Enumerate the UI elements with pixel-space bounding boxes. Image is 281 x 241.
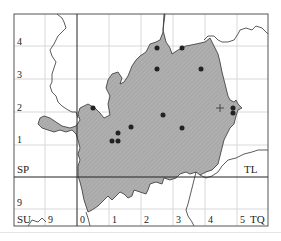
southwest-boundary-line — [86, 212, 90, 226]
south-boundary-line — [186, 172, 196, 226]
northeast-boundary-line — [204, 26, 268, 42]
west-boundary-line — [50, 14, 78, 118]
grid-square-su: SU — [17, 214, 31, 225]
y-label-4: 4 — [17, 37, 22, 47]
grid-square-sp: SP — [17, 164, 29, 175]
y-label-1: 1 — [17, 135, 22, 145]
distribution-map — [0, 0, 281, 241]
x-label-4: 4 — [208, 215, 213, 225]
county-shaded-area — [38, 14, 242, 212]
x-label-1: 1 — [112, 215, 117, 225]
x-label-3: 3 — [176, 215, 181, 225]
grid-square-tq: TQ — [250, 214, 265, 225]
x-label-5: 5 — [240, 215, 245, 225]
y-label-2: 2 — [17, 103, 22, 113]
divider — [0, 232, 281, 233]
y-label-9: 9 — [17, 198, 22, 208]
x-label-9: 9 — [48, 215, 53, 225]
y-label-3: 3 — [17, 70, 22, 80]
x-label-2: 2 — [144, 215, 149, 225]
grid-square-tl: TL — [244, 164, 257, 175]
x-label-0: 0 — [80, 215, 85, 225]
